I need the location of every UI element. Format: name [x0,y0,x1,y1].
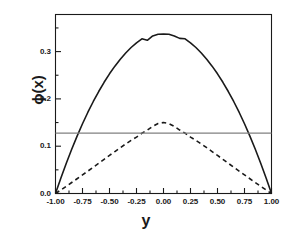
y-tick-label: 0.3 [21,48,51,56]
data-series-group [56,34,272,193]
x-axis-title: y [0,212,292,230]
x-tick-label: 1.00 [252,198,292,206]
frame-rect [56,15,272,194]
y-tick-label: 0.1 [21,142,51,150]
chart-figure: 0.00.10.20.3 -1.00-0.75-0.50-0.250.000.2… [0,0,292,243]
y-axis-title: ϕ(x) [30,60,46,120]
x-axis-tick-labels: -1.00-0.75-0.50-0.250.000.250.500.751.00 [0,198,292,212]
plot-frame [56,15,272,194]
solid-curve [56,34,272,193]
